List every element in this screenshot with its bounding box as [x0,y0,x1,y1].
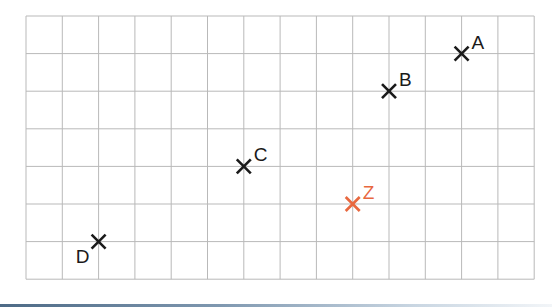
grid-canvas: ABCDZ [0,0,552,307]
point-b: B [382,69,412,98]
point-label: C [254,144,268,165]
grid-diagram: ABCDZ [0,0,552,307]
point-label: D [76,246,90,267]
point-label: Z [363,182,375,203]
point-label: A [472,32,485,53]
point-label: B [399,69,412,90]
point-a: A [455,32,485,61]
point-d: D [76,235,106,267]
point-c: C [237,144,268,173]
point-z: Z [346,182,375,211]
